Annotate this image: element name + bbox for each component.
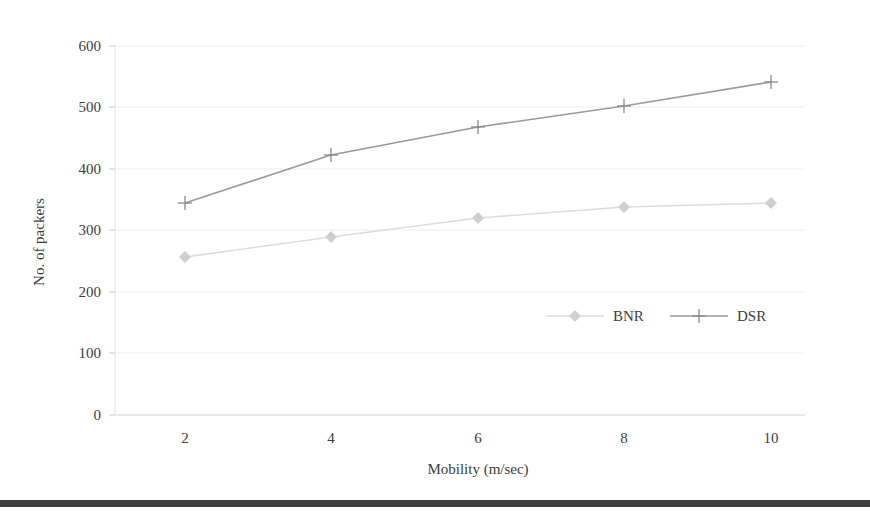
y-axis-title: No. of packers: [31, 198, 47, 286]
bottom-divider-rule: [0, 500, 870, 507]
x-tick-label-2: 2: [181, 430, 189, 446]
y-tick-label-300: 300: [79, 222, 102, 238]
y-tick-label-600: 600: [79, 38, 102, 54]
x-tick-label-4: 4: [327, 430, 335, 446]
y-tick-label-500: 500: [79, 99, 102, 115]
legend-label-bnr: BNR: [613, 308, 644, 324]
y-tick-labels: 600 500 400 300 200 100 0: [79, 38, 102, 423]
plot-area-background: [115, 40, 805, 415]
line-chart: 600 500 400 300 200 100 0 2 4 6 8 10 No.…: [0, 0, 870, 500]
y-tick-label-100: 100: [79, 345, 102, 361]
y-tick-label-400: 400: [79, 161, 102, 177]
legend-label-dsr: DSR: [737, 308, 766, 324]
x-tick-label-10: 10: [764, 430, 779, 446]
figure-container: 600 500 400 300 200 100 0 2 4 6 8 10 No.…: [0, 0, 870, 513]
x-axis-title: Mobility (m/sec): [427, 461, 528, 478]
x-tick-label-8: 8: [620, 430, 628, 446]
x-tick-labels: 2 4 6 8 10: [181, 430, 778, 446]
y-tick-label-0: 0: [94, 407, 102, 423]
x-tick-label-6: 6: [474, 430, 482, 446]
y-tick-marks: [109, 46, 115, 415]
y-tick-label-200: 200: [79, 284, 102, 300]
